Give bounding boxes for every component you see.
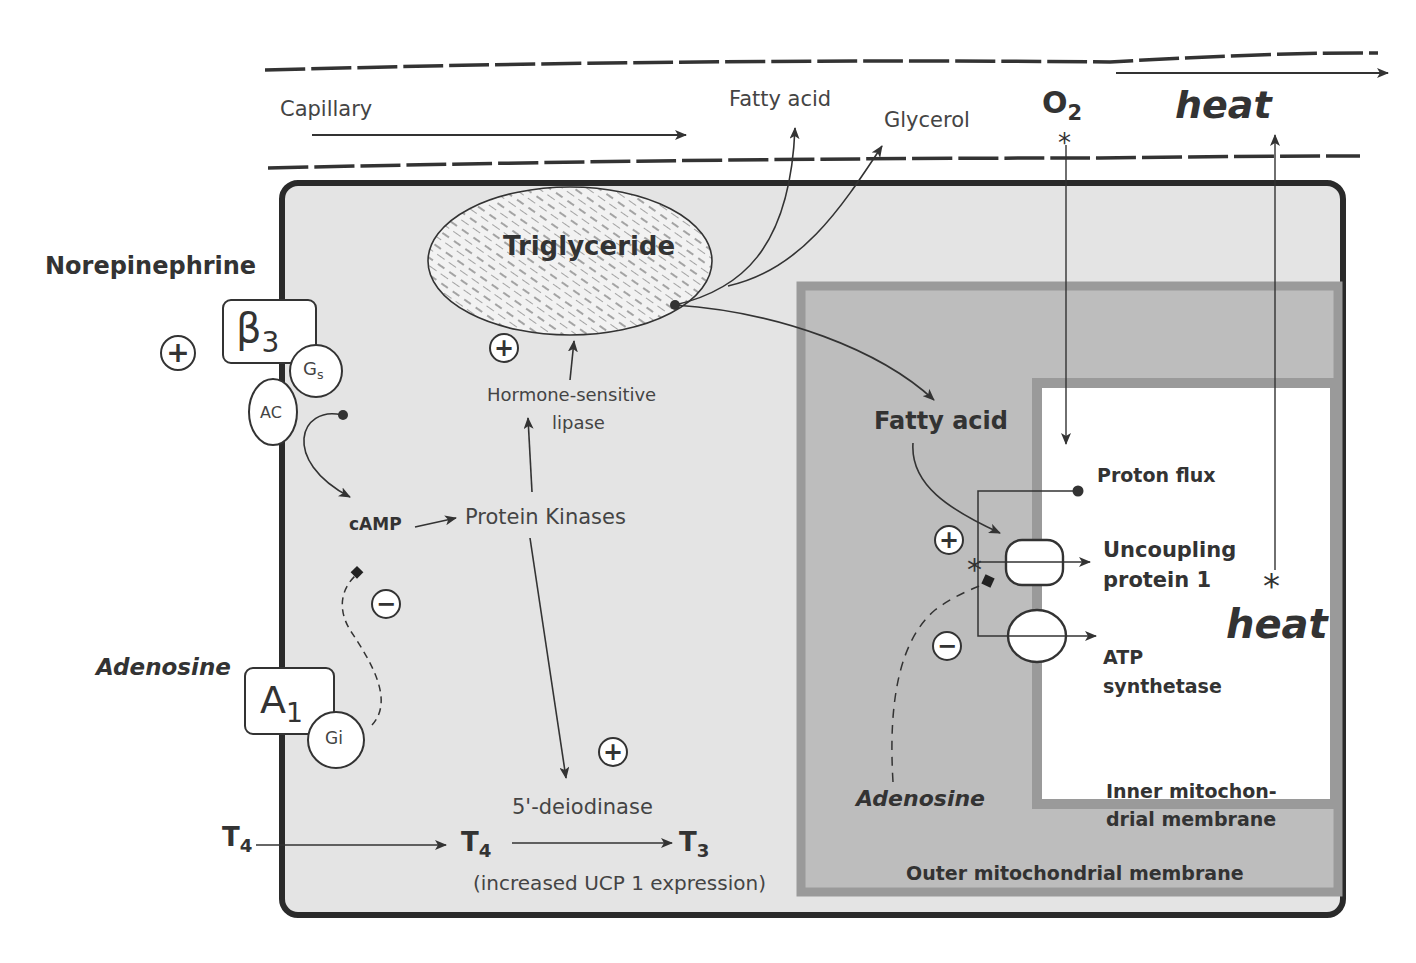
a1-label: A1 [260,681,303,727]
inner-mitochondrial-membrane [1037,383,1335,804]
deiodinase-stimulation-sign: + [598,737,628,767]
ucp-expression-note: (increased UCP 1 expression) [473,873,766,893]
norepinephrine-stimulation-sign: + [160,335,196,371]
gi-label: Gi [325,730,343,747]
ucp-inhibition-sign: − [932,631,962,661]
gi-inhibition-sign: − [371,589,401,619]
lipolysis-dot [670,300,680,310]
camp-label: cAMP [349,516,402,533]
ucp-stimulation-sign: + [934,525,964,555]
adenosine-ligand-label: Adenosine [96,656,231,679]
t4-inside-label: T4 [461,829,491,861]
heat-asterisk: * [1263,566,1280,606]
glycerol-label: Glycerol [884,110,970,131]
atp-synthase-label-line1: ATP [1103,648,1143,667]
mito-fatty-acid-label: Fatty acid [874,409,1008,433]
brown-adipocyte-diagram: * * * Capillary Fatty acid Glycerol O2 h… [0,0,1416,963]
t4-outside-label: T4 [222,824,252,856]
outer-membrane-label: Outer mitochondrial membrane [906,864,1244,883]
triglyceride-label: Triglyceride [503,233,675,259]
beta3-label: β3 [236,308,279,357]
capillary-label: Capillary [280,99,372,120]
atp-synthase-label-line2: synthetase [1103,677,1222,696]
mito-adenosine-label: Adenosine [856,788,985,810]
gs-label: Gs [303,360,324,382]
ucp1-label-line1: Uncoupling [1103,540,1236,561]
inner-membrane-label-line1: Inner mitochon- [1106,782,1277,801]
mito-heat-label: heat [1226,604,1328,644]
proton-flux-dot [1073,486,1084,497]
protein-kinases-label: Protein Kinases [465,507,626,528]
ucp-asterisk: * [967,552,982,587]
proton-flux-label: Proton flux [1097,466,1216,485]
lipase-label-line2: lipase [552,414,605,432]
deiodinase-label: 5'-deiodinase [512,797,653,818]
oxygen-label: O2 [1042,88,1082,124]
t3-label: T3 [679,829,709,861]
heat-out-label: heat [1175,86,1272,124]
triglyceride-droplet [428,187,712,335]
lipase-stimulation-sign: + [489,333,519,363]
inner-membrane-label-line2: drial membrane [1106,810,1276,829]
lipase-label-line1: Hormone-sensitive [487,386,656,404]
ac-label: AC [260,405,282,421]
capillary-fatty-acid-label: Fatty acid [729,89,831,110]
norepinephrine-label: Norepinephrine [45,254,256,278]
ucp1-label-line2: protein 1 [1103,570,1211,591]
oxygen-asterisk: * [1058,128,1071,158]
